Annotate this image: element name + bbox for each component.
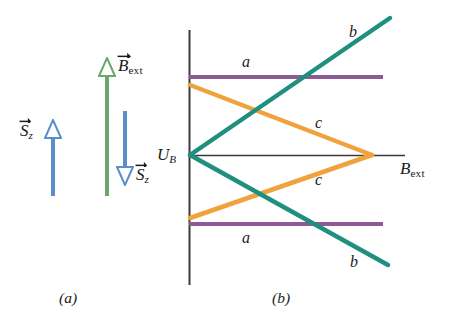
spin-down-label-base: S	[136, 165, 145, 184]
series-c-upper	[190, 85, 372, 155]
panel-a-caption: (a)	[59, 289, 77, 307]
spin-up-label-base: S	[20, 121, 29, 140]
panel-b: UB Bext a a b b c c (b)	[150, 0, 454, 331]
b-ext-label: Bext	[118, 57, 143, 76]
panel-b-caption: (b)	[272, 289, 290, 307]
spin-down-arrow-shaft	[123, 111, 127, 171]
label-c-lower: c	[315, 172, 322, 188]
y-axis-label-sub: B	[169, 153, 176, 165]
spin-up-arrow-head	[44, 119, 62, 139]
b-ext-label-sub: ext	[128, 64, 142, 76]
b-ext-label-base: B	[118, 56, 128, 75]
spin-down-arrow-head	[116, 166, 134, 186]
spin-down-label-sub: z	[145, 173, 149, 185]
b-ext-arrow-head	[98, 57, 116, 77]
label-a-lower: a	[242, 230, 250, 246]
x-axis-label-base: B	[400, 159, 410, 178]
label-b-upper: b	[349, 24, 357, 40]
spin-up-arrow-shaft	[51, 134, 55, 196]
spin-down-label: Sz	[136, 166, 149, 185]
label-a-upper: a	[242, 54, 250, 70]
spin-up-label: Sz	[20, 122, 33, 141]
series-c-lower	[190, 155, 372, 218]
label-b-lower: b	[350, 254, 358, 270]
x-axis-label: Bext	[400, 160, 425, 179]
label-c-upper: c	[315, 115, 322, 131]
y-axis-label: UB	[157, 146, 176, 165]
series-b-upper	[190, 18, 390, 155]
y-axis-label-base: U	[157, 145, 169, 164]
x-axis-label-sub: ext	[410, 167, 424, 179]
b-ext-arrow-shaft	[105, 73, 109, 196]
figure-root: Sz Bext Sz (a)	[0, 0, 454, 331]
spin-up-label-sub: z	[29, 129, 33, 141]
